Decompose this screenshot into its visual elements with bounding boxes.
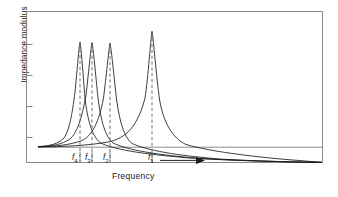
y-axis-ticks [27, 45, 33, 138]
x-tick-label-f4-sub: 4 [74, 158, 77, 164]
x-tick-label-f1-sub: 1 [150, 158, 153, 164]
x-tick-label-f1: f1 [148, 152, 154, 164]
x-tick-label-f4: f4 [72, 152, 78, 164]
curve-resonance-f4 [38, 42, 322, 162]
x-axis-title: Frequency [112, 171, 154, 181]
figure-container: Impedance modulus [0, 0, 338, 197]
x-tick-label-f3: f3 [85, 152, 91, 164]
plot-frame [27, 12, 323, 163]
curve-resonance-f2 [38, 43, 322, 162]
impedance-modulus-plot [0, 0, 338, 197]
curve-resonance-f3 [38, 43, 322, 163]
x-tick-label-f2-sub: 2 [105, 158, 108, 164]
x-tick-label-f2: f2 [103, 152, 109, 164]
curve-resonance-f1 [38, 31, 322, 162]
x-tick-label-f3-sub: 3 [87, 158, 90, 164]
